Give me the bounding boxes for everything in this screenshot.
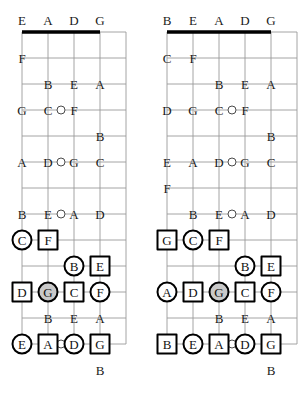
note-label: D <box>162 104 171 117</box>
note-label: G <box>17 104 26 117</box>
note-label: E <box>241 78 249 91</box>
note-label: E <box>163 156 171 169</box>
open-string-label: E <box>189 14 197 27</box>
note-marker-circle: D <box>64 334 85 355</box>
note-label: D <box>43 156 52 169</box>
note-label: C <box>96 156 105 169</box>
note-marker-square: F <box>209 230 230 251</box>
note-marker-circle: B <box>64 256 85 277</box>
note-label: C <box>163 52 172 65</box>
note-label: A <box>240 208 249 221</box>
note-label: B <box>189 208 198 221</box>
note-label: F <box>163 182 170 195</box>
note-marker-circle: B <box>235 256 256 277</box>
note-label: C <box>215 104 224 117</box>
note-marker-square: E <box>261 256 282 277</box>
open-string-label: A <box>43 14 52 27</box>
note-label: A <box>69 208 78 221</box>
note-marker-circle: F <box>261 282 282 303</box>
note-label: F <box>18 52 25 65</box>
note-label: B <box>18 208 27 221</box>
note-label: G <box>240 156 249 169</box>
note-label: D <box>95 208 104 221</box>
note-marker-circle: C <box>183 230 204 251</box>
fret-inlay-dot <box>228 158 237 167</box>
root-note-marker: G <box>38 282 59 303</box>
fretboard-left: EADGFBEAGCFBADGCBEADFBEAGCFBCFBEDGCFEADG <box>0 0 153 399</box>
note-label: B <box>267 364 276 377</box>
note-label: B <box>44 78 53 91</box>
fret-inlay-dot <box>228 210 237 219</box>
note-marker-square: C <box>235 282 256 303</box>
fret-inlay-dot <box>57 210 66 219</box>
open-string-label: A <box>214 14 223 27</box>
note-label: B <box>44 312 53 325</box>
note-label: A <box>266 312 275 325</box>
note-marker-square: G <box>157 230 178 251</box>
note-marker-circle: E <box>12 334 33 355</box>
note-label: B <box>215 312 224 325</box>
note-marker-square: C <box>64 282 85 303</box>
note-label: B <box>215 78 224 91</box>
note-marker-square: B <box>157 334 178 355</box>
note-label: G <box>69 156 78 169</box>
open-string-label: D <box>240 14 249 27</box>
note-label: G <box>188 104 197 117</box>
note-label: A <box>95 78 104 91</box>
note-label: F <box>70 104 77 117</box>
note-marker-square: D <box>12 282 33 303</box>
note-label: E <box>44 208 52 221</box>
note-label: A <box>17 156 26 169</box>
note-marker-square: G <box>261 334 282 355</box>
note-marker-circle: C <box>12 230 33 251</box>
fret-inlay-dot <box>228 106 237 115</box>
note-label: D <box>266 208 275 221</box>
note-label: C <box>267 156 276 169</box>
note-marker-square: A <box>209 334 230 355</box>
fretboard-diagram-pair: EADGFBEAGCFBADGCBEADFBEAGCFBCFBEDGCFEADG… <box>0 0 306 399</box>
note-marker-square: F <box>38 230 59 251</box>
note-label: E <box>70 312 78 325</box>
note-label: D <box>214 156 223 169</box>
note-marker-square: D <box>183 282 204 303</box>
note-label: E <box>241 312 249 325</box>
note-marker-square: A <box>38 334 59 355</box>
note-label: E <box>215 208 223 221</box>
note-label: B <box>96 364 105 377</box>
note-marker-circle: F <box>90 282 111 303</box>
note-label: C <box>44 104 53 117</box>
note-label: A <box>95 312 104 325</box>
note-label: A <box>266 78 275 91</box>
note-marker-square: G <box>90 334 111 355</box>
note-marker-circle: D <box>235 334 256 355</box>
note-label: F <box>189 52 196 65</box>
note-marker-square: E <box>90 256 111 277</box>
root-note-marker: G <box>209 282 230 303</box>
note-marker-circle: E <box>183 334 204 355</box>
fret-inlay-dot <box>57 106 66 115</box>
note-marker-circle: A <box>157 282 178 303</box>
open-string-label: D <box>69 14 78 27</box>
open-string-label: G <box>95 14 104 27</box>
note-label: F <box>241 104 248 117</box>
fret-inlay-dot <box>57 158 66 167</box>
note-label: B <box>267 130 276 143</box>
open-string-label: E <box>18 14 26 27</box>
fretboard-right: BEADGCFBEADGCFBEADGCFBEADFBEAGCFBGCFBEAD… <box>153 0 306 399</box>
open-string-label: B <box>163 14 172 27</box>
note-label: E <box>70 78 78 91</box>
note-label: B <box>96 130 105 143</box>
note-label: A <box>188 156 197 169</box>
open-string-label: G <box>266 14 275 27</box>
